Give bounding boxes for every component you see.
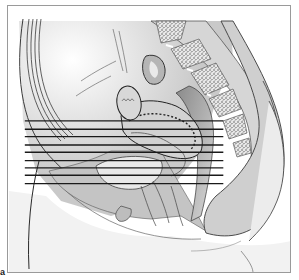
pelvis-sagittal-illustration bbox=[8, 6, 291, 273]
panel-label: a bbox=[0, 268, 5, 277]
illustration-frame bbox=[7, 5, 291, 273]
anatomy-figure: a bbox=[0, 0, 299, 280]
sigmoid-colon bbox=[143, 55, 166, 84]
